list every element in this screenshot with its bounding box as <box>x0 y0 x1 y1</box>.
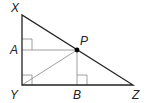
label-X: X <box>10 1 20 15</box>
triangle-diagram: X A P Y B Z <box>0 0 149 103</box>
label-Z: Z <box>131 88 140 102</box>
label-B: B <box>73 88 81 102</box>
right-angle-mark-B <box>77 75 87 85</box>
point-P <box>75 48 80 53</box>
label-P: P <box>80 34 88 48</box>
label-A: A <box>9 43 18 57</box>
right-angle-mark-A <box>22 39 32 50</box>
segment-YP <box>22 50 77 85</box>
label-Y: Y <box>10 88 19 102</box>
